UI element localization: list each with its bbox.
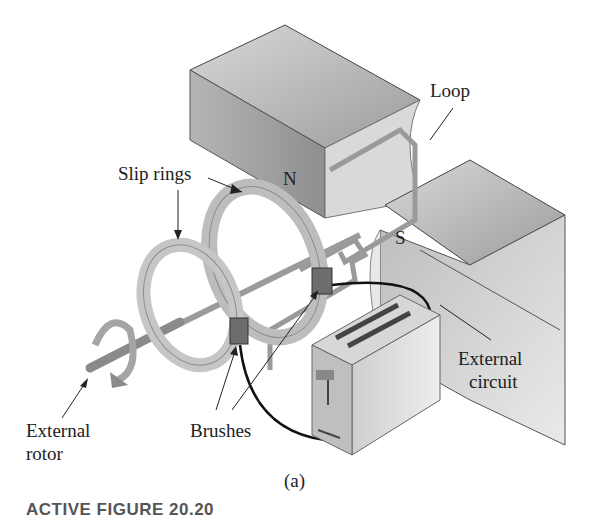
label-brushes: Brushes xyxy=(190,420,251,441)
panel-label: (a) xyxy=(284,470,305,491)
label-loop: Loop xyxy=(430,80,470,101)
label-slip-rings: Slip rings xyxy=(118,163,191,184)
toaster xyxy=(312,295,440,455)
label-external-circuit-line1: External xyxy=(458,348,522,369)
brush-front xyxy=(230,318,248,344)
figure-caption-title: ACTIVE FIGURE 20.20 xyxy=(26,500,214,519)
label-north-pole: N xyxy=(283,168,297,189)
label-external-rotor-line1: External xyxy=(26,420,90,441)
label-south-pole: S xyxy=(395,227,406,248)
label-external-rotor-line2: rotor xyxy=(26,443,63,464)
label-external-circuit-line2: circuit xyxy=(469,371,518,392)
brush-back xyxy=(312,268,332,294)
